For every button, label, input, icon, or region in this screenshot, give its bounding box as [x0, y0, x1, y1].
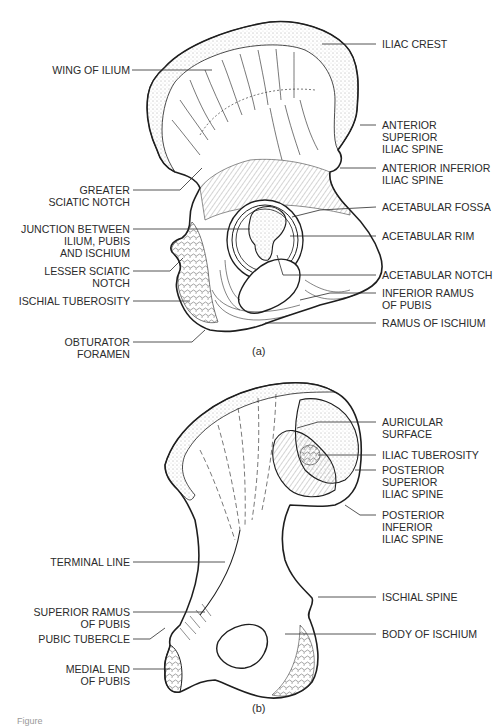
label-ischial-tuberosity: ISCHIAL TUBEROSITY [5, 295, 130, 307]
label-iliac-crest: ILIAC CREST [382, 38, 447, 50]
label-wing-of-ilium: WING OF ILIUM [40, 64, 130, 76]
label-anterior-superior-iliac-spine: ANTERIOR SUPERIOR ILIAC SPINE [382, 119, 443, 155]
panel-a-tag: (a) [252, 345, 265, 357]
label-lesser-sciatic-notch: LESSER SCIATIC NOTCH [20, 265, 130, 289]
label-posterior-superior-iliac-spine: POSTERIOR SUPERIOR ILIAC SPINE [382, 464, 444, 500]
panel-a-drawing [147, 22, 382, 332]
label-acetabular-fossa: ACETABULAR FOSSA [382, 201, 491, 213]
label-greater-sciatic-notch: GREATER SCIATIC NOTCH [30, 184, 130, 208]
panel-b-drawing [165, 383, 362, 698]
label-obturator-foramen: OBTURATOR FORAMEN [30, 336, 130, 360]
label-ischial-spine: ISCHIAL SPINE [382, 591, 458, 603]
label-medial-end-of-pubis: MEDIAL END OF PUBIS [20, 663, 130, 687]
label-iliac-tuberosity: ILIAC TUBEROSITY [382, 449, 479, 461]
label-auricular-surface: AURICULAR SURFACE [382, 416, 443, 440]
label-pubic-tubercle: PUBIC TUBERCLE [20, 633, 130, 645]
label-terminal-line: TERMINAL LINE [20, 556, 130, 568]
panel-b-tag: (b) [252, 702, 265, 714]
label-inferior-ramus-of-pubis: INFERIOR RAMUS OF PUBIS [382, 287, 474, 311]
label-junction-ilium-pubis-ischium: JUNCTION BETWEEN ILIUM, PUBIS AND ISCHIU… [10, 223, 130, 259]
label-posterior-inferior-iliac-spine: POSTERIOR INFERIOR ILIAC SPINE [382, 509, 444, 545]
label-ramus-of-ischium: RAMUS OF ISCHIUM [382, 317, 486, 329]
label-anterior-inferior-iliac-spine: ANTERIOR INFERIOR ILIAC SPINE [382, 162, 490, 186]
label-superior-ramus-of-pubis: SUPERIOR RAMUS OF PUBIS [20, 606, 130, 630]
label-body-of-ischium: BODY OF ISCHIUM [382, 628, 477, 640]
label-acetabular-notch: ACETABULAR NOTCH [382, 269, 492, 281]
figure-caption: Figure [17, 716, 43, 726]
label-acetabular-rim: ACETABULAR RIM [382, 230, 474, 242]
